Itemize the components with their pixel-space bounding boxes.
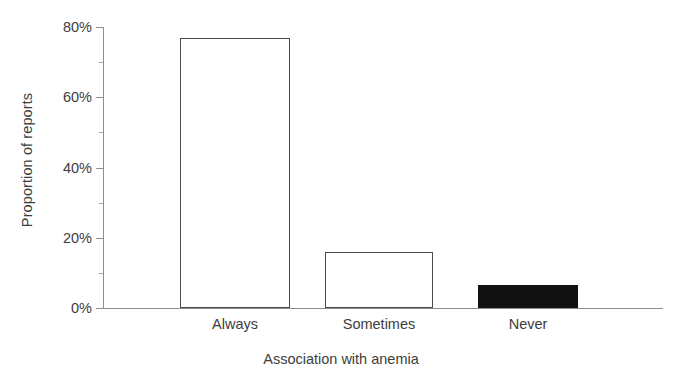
x-axis-tick-label: Sometimes <box>343 316 416 332</box>
y-axis-tick-label: 0% <box>46 300 92 316</box>
y-axis-tick-label: 60% <box>46 89 92 105</box>
x-axis-tick-label: Always <box>212 316 258 332</box>
bar-sometimes <box>325 252 433 308</box>
y-axis-tick-label: 80% <box>46 19 92 35</box>
x-axis-line <box>103 308 663 309</box>
x-axis-tick-label: Never <box>509 316 548 332</box>
bar-always <box>180 38 290 308</box>
y-axis-major-tick <box>96 27 103 28</box>
y-axis-tick-labels: 80%60%40%20%0% <box>46 0 92 388</box>
y-axis-tick-label: 20% <box>46 230 92 246</box>
plot-area <box>103 27 663 308</box>
y-axis-major-tick <box>96 168 103 169</box>
y-axis-major-tick <box>96 238 103 239</box>
y-axis-major-tick <box>96 308 103 309</box>
bar-never <box>478 285 578 308</box>
y-axis-tick-label: 40% <box>46 160 92 176</box>
x-axis-title: Association with anemia <box>0 351 682 367</box>
bar-chart-figure: Proportion of reports 80%60%40%20%0% Alw… <box>0 0 682 388</box>
y-axis-major-tick <box>96 97 103 98</box>
y-axis-title: Proportion of reports <box>14 10 40 310</box>
